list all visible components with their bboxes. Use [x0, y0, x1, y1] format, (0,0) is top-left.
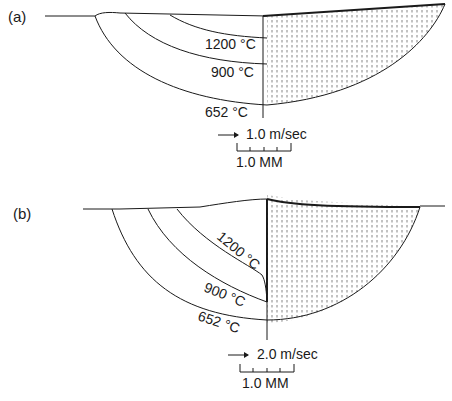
velocity-field — [263, 0, 452, 110]
length-scale-label: 1.0 MM — [242, 375, 289, 391]
panel-b-label: (b) — [13, 205, 31, 222]
panel-a: (a) 1200 °C 900 °C 652 °C 1.0 m/sec 1.0 … — [8, 0, 452, 170]
length-scale-b: 1.0 MM — [240, 364, 294, 391]
isotherm-label-652: 652 °C — [205, 104, 248, 120]
isotherm-label-652: 652 °C — [196, 308, 242, 336]
length-scale-label: 1.0 MM — [236, 154, 283, 170]
isotherm-1200-line — [170, 15, 267, 38]
scale-bar-icon — [240, 364, 294, 372]
velocity-scale-a: 1.0 m/sec — [218, 126, 307, 142]
isotherm-label-1200: 1200 °C — [214, 228, 263, 273]
isotherm-652-line — [95, 16, 267, 105]
weld-pool-diagram: (a) 1200 °C 900 °C 652 °C 1.0 m/sec 1.0 … — [0, 0, 452, 401]
velocity-scale-b: 2.0 m/sec — [228, 346, 318, 362]
surface-line — [83, 199, 267, 209]
length-scale-a: 1.0 MM — [236, 143, 291, 170]
scale-bar-icon — [237, 143, 291, 151]
panel-b: (b) 1200 °C 900 °C 652 °C 2.0 m/sec 1.0 … — [13, 190, 445, 391]
velocity-field — [267, 190, 437, 330]
isotherm-label-900: 900 °C — [211, 64, 254, 80]
isotherm-label-1200: 1200 °C — [205, 36, 256, 52]
velocity-scale-label: 1.0 m/sec — [246, 126, 307, 142]
panel-a-label: (a) — [8, 8, 26, 25]
surface-line — [45, 12, 267, 16]
velocity-scale-label: 2.0 m/sec — [257, 346, 318, 362]
